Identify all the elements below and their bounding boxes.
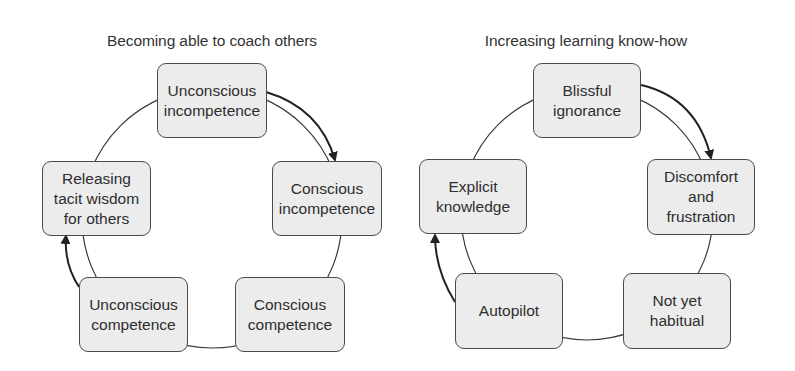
cycle-arrow-top (266, 92, 335, 160)
learning-know-how-cycle-diagram: Increasing learning know-how Blissful ig… (397, 0, 795, 371)
diagram-title: Becoming able to coach others (107, 32, 317, 50)
stage-label: Autopilot (479, 301, 539, 321)
stage-label: Conscious incompetence (279, 179, 376, 219)
stage-label: Blissful ignorance (553, 81, 621, 121)
stage-box-not-yet-habitual: Not yet habitual (623, 273, 731, 349)
stage-box-conscious-incompetence: Conscious incompetence (272, 161, 382, 236)
stage-label: Unconscious incompetence (164, 81, 261, 121)
stage-label: Unconscious competence (89, 295, 178, 335)
stage-label: Releasing tacit wisdom for others (54, 169, 139, 229)
stage-box-conscious-competence: Conscious competence (235, 277, 345, 352)
stage-label: Not yet habitual (650, 291, 704, 331)
stage-box-unconscious-competence: Unconscious competence (79, 277, 188, 352)
stage-box-blissful-ignorance: Blissful ignorance (533, 63, 641, 138)
stage-box-unconscious-incompetence: Unconscious incompetence (157, 63, 267, 138)
diagram-title: Increasing learning know-how (485, 32, 687, 50)
stage-box-releasing-tacit-wisdom: Releasing tacit wisdom for others (42, 161, 151, 236)
stage-box-autopilot: Autopilot (455, 273, 563, 349)
cycle-arrow-top (641, 85, 711, 158)
stage-box-discomfort-frustration: Discomfort and frustration (647, 159, 755, 235)
stage-label: Explicit knowledge (436, 177, 510, 217)
cycle-arrow-left (435, 235, 455, 302)
stage-label: Conscious competence (248, 295, 332, 335)
stage-label: Discomfort and frustration (664, 167, 738, 227)
cycle-arrow-left (66, 236, 79, 287)
stage-box-explicit-knowledge: Explicit knowledge (419, 159, 527, 234)
coach-others-cycle-diagram: Becoming able to coach others Unconsciou… (0, 0, 397, 371)
